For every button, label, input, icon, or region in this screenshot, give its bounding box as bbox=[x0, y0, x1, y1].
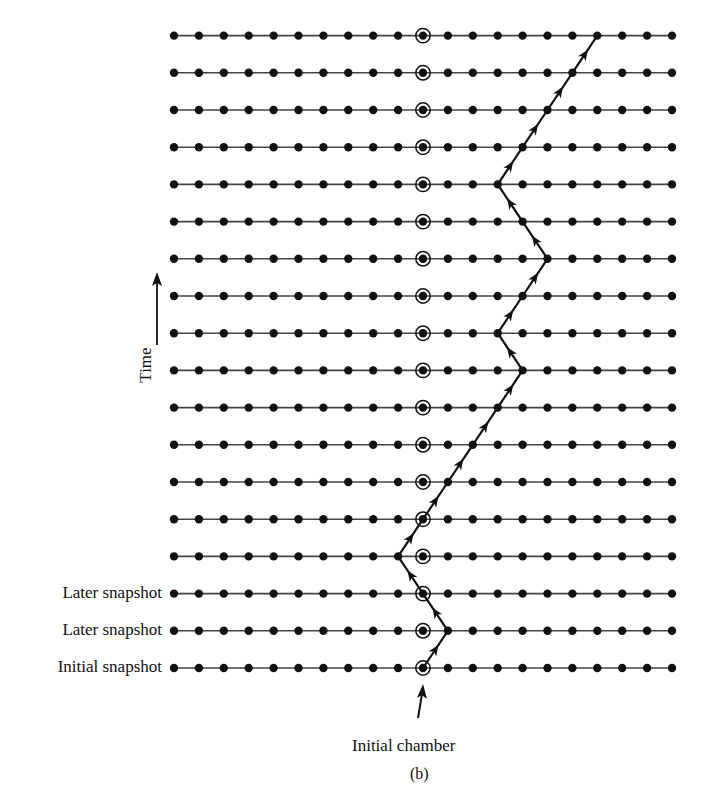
chamber-dot bbox=[195, 180, 203, 188]
chamber-dot bbox=[543, 478, 551, 486]
chamber-dot bbox=[369, 180, 377, 188]
chamber-dot bbox=[469, 627, 477, 635]
chamber-dot bbox=[469, 552, 477, 560]
chamber-dot bbox=[319, 589, 327, 597]
chamber-dot bbox=[618, 329, 626, 337]
chamber-dot bbox=[618, 589, 626, 597]
chamber-dot bbox=[220, 403, 228, 411]
chamber-dot bbox=[269, 515, 277, 523]
chamber-dot bbox=[469, 180, 477, 188]
chamber-dot bbox=[593, 552, 601, 560]
chamber-dot bbox=[269, 31, 277, 39]
chamber-dot bbox=[618, 69, 626, 77]
chamber-dot bbox=[518, 478, 526, 486]
chamber-dot bbox=[543, 515, 551, 523]
chamber-dot bbox=[518, 403, 526, 411]
chamber-dot bbox=[394, 478, 402, 486]
chamber-dot bbox=[419, 441, 427, 449]
direction-arrow-icon bbox=[478, 422, 488, 434]
chamber-dot bbox=[444, 329, 452, 337]
chamber-dot bbox=[344, 292, 352, 300]
chamber-dot bbox=[245, 441, 253, 449]
chamber-dot bbox=[294, 403, 302, 411]
chamber-dot bbox=[643, 478, 651, 486]
chamber-dot bbox=[643, 31, 651, 39]
chamber-dot bbox=[245, 664, 253, 672]
direction-arrow-icon bbox=[553, 87, 563, 99]
chamber-dot bbox=[568, 180, 576, 188]
snapshot-label: Initial snapshot bbox=[2, 657, 162, 677]
chamber-dot bbox=[568, 515, 576, 523]
snapshot-row bbox=[170, 475, 676, 489]
chamber-dot bbox=[195, 143, 203, 151]
chamber-dot bbox=[643, 180, 651, 188]
chamber-dot bbox=[195, 664, 203, 672]
chamber-dot bbox=[419, 403, 427, 411]
chamber-dot bbox=[220, 515, 228, 523]
chamber-dot bbox=[319, 292, 327, 300]
chamber-dot bbox=[319, 143, 327, 151]
chamber-dot bbox=[294, 441, 302, 449]
chamber-dot bbox=[319, 478, 327, 486]
chamber-dot bbox=[593, 589, 601, 597]
snapshot-row bbox=[170, 214, 676, 228]
chamber-dot bbox=[643, 441, 651, 449]
direction-arrow-icon bbox=[503, 161, 513, 173]
chamber-dot bbox=[643, 403, 651, 411]
chamber-dot bbox=[319, 255, 327, 263]
chamber-dot bbox=[294, 217, 302, 225]
chamber-dot bbox=[394, 217, 402, 225]
chamber-dot bbox=[220, 329, 228, 337]
chamber-dot bbox=[593, 478, 601, 486]
chamber-dot bbox=[593, 627, 601, 635]
chamber-dot bbox=[618, 478, 626, 486]
chamber-dot bbox=[543, 69, 551, 77]
chamber-dot bbox=[344, 31, 352, 39]
chamber-dot bbox=[469, 255, 477, 263]
chamber-dot bbox=[518, 31, 526, 39]
chamber-dot bbox=[643, 329, 651, 337]
direction-arrow-icon bbox=[528, 273, 538, 285]
chamber-dot bbox=[618, 255, 626, 263]
chamber-dot bbox=[269, 552, 277, 560]
chamber-dot bbox=[344, 478, 352, 486]
chamber-dot bbox=[618, 403, 626, 411]
chamber-dot bbox=[618, 441, 626, 449]
chamber-dot bbox=[170, 106, 178, 114]
snapshot-rows bbox=[170, 28, 676, 675]
chamber-dot bbox=[220, 180, 228, 188]
chamber-dot bbox=[394, 515, 402, 523]
chamber-dot bbox=[643, 106, 651, 114]
chamber-dot bbox=[419, 292, 427, 300]
chamber-dot bbox=[494, 143, 502, 151]
chamber-dot bbox=[269, 366, 277, 374]
chamber-dot bbox=[394, 403, 402, 411]
chamber-dot bbox=[220, 143, 228, 151]
chamber-dot bbox=[568, 31, 576, 39]
chamber-dot bbox=[518, 589, 526, 597]
chamber-dot bbox=[269, 106, 277, 114]
chamber-dot bbox=[294, 255, 302, 263]
chamber-dot bbox=[394, 31, 402, 39]
chamber-dot bbox=[668, 403, 676, 411]
chamber-dot bbox=[543, 31, 551, 39]
chamber-dot bbox=[269, 143, 277, 151]
chamber-dot bbox=[394, 255, 402, 263]
chamber-dot bbox=[269, 403, 277, 411]
chamber-dot bbox=[319, 403, 327, 411]
chamber-dot bbox=[245, 292, 253, 300]
chamber-dot bbox=[469, 478, 477, 486]
chamber-dot bbox=[220, 69, 228, 77]
chamber-dot bbox=[195, 366, 203, 374]
chamber-dot bbox=[518, 255, 526, 263]
chamber-dot bbox=[518, 329, 526, 337]
chamber-dot bbox=[170, 366, 178, 374]
chamber-dot bbox=[170, 292, 178, 300]
chamber-dot bbox=[419, 180, 427, 188]
chamber-dot bbox=[518, 106, 526, 114]
chamber-dot bbox=[444, 664, 452, 672]
chamber-dot bbox=[319, 31, 327, 39]
chamber-dot bbox=[170, 180, 178, 188]
chamber-dot bbox=[593, 366, 601, 374]
chamber-dot bbox=[369, 441, 377, 449]
